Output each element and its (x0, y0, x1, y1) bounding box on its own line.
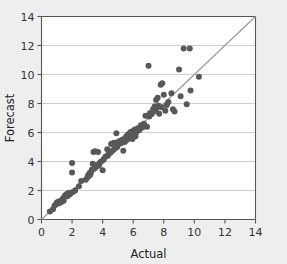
x-tick-label-14: 14 (249, 226, 263, 239)
x-tick-label-0: 0 (38, 226, 45, 239)
x-axis-title: Actual (130, 247, 166, 261)
data-point (165, 99, 171, 105)
data-point (187, 45, 193, 51)
x-tick-label-6: 6 (130, 226, 137, 239)
data-point (178, 93, 184, 99)
data-point (171, 108, 177, 114)
data-point (113, 130, 119, 136)
data-point (100, 167, 106, 173)
y-tick-label-8: 8 (28, 98, 35, 111)
data-point (95, 149, 101, 155)
data-point (69, 160, 75, 166)
y-axis-title: Forecast (3, 93, 17, 142)
x-tick-label-8: 8 (160, 226, 167, 239)
data-point (155, 95, 161, 101)
x-tick-label-2: 2 (69, 226, 76, 239)
y-tick-label-0: 0 (28, 214, 35, 227)
y-tick-label-12: 12 (21, 40, 35, 53)
chart-canvas: 02468101214 02468101214 Actual Forecast (0, 0, 287, 264)
y-tick-label-6: 6 (28, 127, 35, 140)
y-tick-label-2: 2 (28, 185, 35, 198)
data-point (196, 74, 202, 80)
data-point (69, 169, 75, 175)
data-point (161, 92, 167, 98)
data-point (188, 87, 194, 93)
data-point (176, 66, 182, 72)
data-point (181, 45, 187, 51)
data-point (184, 101, 190, 107)
data-point (146, 63, 152, 69)
y-tick-label-4: 4 (28, 156, 35, 169)
data-point (144, 124, 150, 130)
x-tick-label-12: 12 (218, 226, 232, 239)
data-point (159, 80, 165, 86)
data-point (120, 148, 126, 154)
data-point (156, 111, 162, 117)
x-tick-label-4: 4 (99, 226, 106, 239)
scatter-chart: 02468101214 02468101214 Actual Forecast (0, 0, 287, 264)
data-point (168, 90, 174, 96)
y-tick-label-14: 14 (21, 11, 35, 24)
y-tick-label-10: 10 (21, 69, 35, 82)
data-point (162, 108, 168, 114)
x-tick-label-10: 10 (187, 226, 201, 239)
